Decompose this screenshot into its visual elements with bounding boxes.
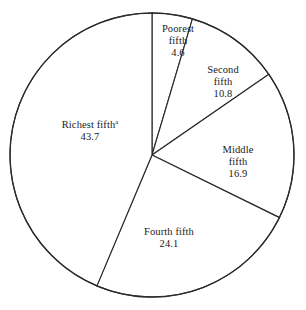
slice-label-value: 43.7 xyxy=(42,131,138,143)
slice-label-value: 4.6 xyxy=(150,47,206,59)
slice-label-middle-fifth: Middle fifth 16.9 xyxy=(207,144,269,180)
slice-label-name-line1: Fourth fifth xyxy=(124,226,214,238)
slice-label-name-line2: fifth xyxy=(150,35,206,47)
pie-chart: Poorest fifth 4.6 Second fifth 10.8 Midd… xyxy=(0,0,306,310)
slice-label-value: 24.1 xyxy=(124,238,214,250)
slice-label-value: 10.8 xyxy=(192,88,254,100)
slice-label-poorest-fifth: Poorest fifth 4.6 xyxy=(150,23,206,59)
footnote-marker: a xyxy=(115,118,118,125)
slice-label-name-line1: Poorest xyxy=(150,23,206,35)
slice-label-fourth-fifth: Fourth fifth 24.1 xyxy=(124,226,214,250)
slice-label-value: 16.9 xyxy=(207,168,269,180)
slice-label-name-line1: Richest fiftha xyxy=(42,119,138,131)
slice-label-name-line2: fifth xyxy=(207,156,269,168)
slice-label-name-line1: Second xyxy=(192,64,254,76)
slice-label-name-text: Richest fifth xyxy=(62,119,116,130)
slice-label-richest-fifth: Richest fiftha 43.7 xyxy=(42,119,138,143)
slice-label-name-line1: Middle xyxy=(207,144,269,156)
slice-label-name-line2: fifth xyxy=(192,76,254,88)
slice-label-second-fifth: Second fifth 10.8 xyxy=(192,64,254,100)
